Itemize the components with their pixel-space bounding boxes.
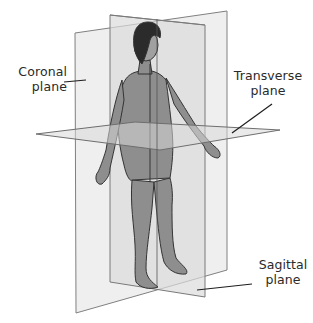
sagittal-plane-label: Sagittal plane: [258, 257, 308, 287]
coronal-label-line1: Coronal: [9, 64, 67, 79]
anatomical-planes-diagram: Coronal plane Transverse plane Sagittal …: [0, 0, 313, 323]
sagittal-label-line1: Sagittal: [258, 257, 308, 272]
transverse-label-line1: Transverse: [230, 68, 306, 83]
sagittal-label-line2: plane: [258, 272, 308, 287]
coronal-label-line2: plane: [9, 79, 67, 94]
transverse-plane-label: Transverse plane: [230, 68, 306, 98]
transverse-plane: [36, 122, 280, 150]
coronal-plane-label: Coronal plane: [9, 64, 67, 94]
transverse-label-line2: plane: [230, 83, 306, 98]
